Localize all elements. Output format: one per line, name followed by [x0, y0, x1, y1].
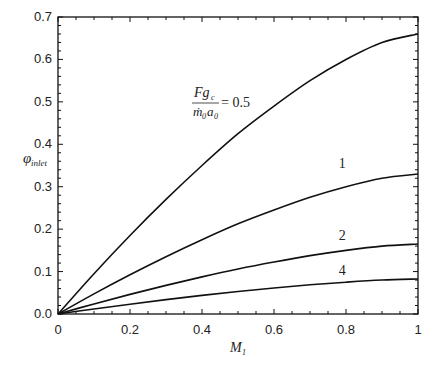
svg-text:1: 1: [242, 348, 246, 357]
curve-label-4: 4: [339, 263, 346, 278]
x-axis-label: M 1: [229, 340, 246, 357]
x-tick-label: 0.6: [265, 322, 283, 337]
svg-text:M: M: [229, 340, 243, 355]
y-tick-label: 0.2: [34, 221, 52, 236]
svg-text:ṁ: ṁ: [193, 104, 202, 119]
curves: [58, 34, 418, 314]
x-tick-label: 0.2: [121, 322, 139, 337]
y-tick-label: 0.5: [34, 94, 52, 109]
curve-0.5: [58, 34, 418, 314]
svg-text:inlet: inlet: [31, 158, 47, 168]
curve-labels: 124: [339, 156, 346, 278]
y-tick-label: 0.0: [34, 306, 52, 321]
svg-text:a: a: [207, 104, 214, 119]
y-tick-label: 0.3: [34, 179, 52, 194]
y-axis-label: φ inlet: [23, 150, 47, 168]
svg-text:Fg: Fg: [193, 85, 210, 100]
curve-1: [58, 174, 418, 314]
svg-text:= 0.5: = 0.5: [221, 95, 250, 110]
x-tick-label: 0: [54, 322, 61, 337]
y-tick-label: 0.7: [34, 9, 52, 24]
y-tick-label: 0.1: [34, 264, 52, 279]
line-chart: 0.00.10.20.30.40.50.60.7 00.20.40.60.81 …: [0, 0, 432, 366]
x-tick-label: 0.8: [337, 322, 355, 337]
x-tick-labels: 00.20.40.60.81: [54, 322, 421, 337]
x-tick-label: 0.4: [193, 322, 211, 337]
curve-label-2: 2: [339, 228, 346, 243]
parameter-annotation: Fg c ṁ 0 a 0 = 0.5: [192, 85, 250, 121]
x-tick-label: 1: [414, 322, 421, 337]
curve-label-1: 1: [339, 156, 346, 171]
svg-text:0: 0: [202, 112, 206, 121]
y-tick-label: 0.4: [34, 136, 52, 151]
svg-text:c: c: [211, 93, 215, 102]
y-tick-label: 0.6: [34, 51, 52, 66]
svg-text:0: 0: [214, 112, 218, 121]
